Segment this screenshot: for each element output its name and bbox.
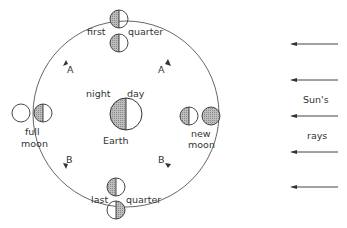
new-moon-label-line1: new xyxy=(191,128,211,139)
earth xyxy=(110,98,142,130)
orbit-marker-a-left: A xyxy=(67,64,74,75)
suns-rays-label-line2: rays xyxy=(307,130,327,141)
full-moon-label-line2: moon xyxy=(21,138,48,149)
moon-first-quarter-orbit xyxy=(110,34,128,52)
earth-night-label: night xyxy=(86,88,110,99)
moon-first-quarter-appearance xyxy=(110,10,128,28)
moon-full-orbit xyxy=(34,104,52,122)
full-moon-label-line1: full xyxy=(25,126,40,137)
moon-full-appearance xyxy=(12,104,30,122)
sun-rays xyxy=(290,42,338,189)
moon-last-quarter-orbit xyxy=(107,178,125,196)
orbit-marker-b-right: B xyxy=(158,154,165,165)
orbit-marker-a-right: A xyxy=(158,64,165,75)
orbit-arrow-icon xyxy=(165,59,171,66)
moon-phases-diagram xyxy=(0,0,347,228)
orbit-arrow-icon xyxy=(165,163,171,168)
suns-rays-label-line1: Sun's xyxy=(303,94,329,105)
new-moon-label-line2: moon xyxy=(188,139,215,150)
last-quarter-label-quarter: quarter xyxy=(126,194,161,205)
moon-new-appearance xyxy=(202,107,220,125)
earth-day-label: day xyxy=(127,88,144,99)
earth-label: Earth xyxy=(103,135,128,146)
moon-new-orbit xyxy=(180,107,198,125)
moon-last-quarter-appearance xyxy=(107,201,125,219)
first-quarter-label-quarter: quarter xyxy=(128,26,163,37)
first-quarter-label-first: first xyxy=(87,26,106,37)
orbit-marker-b-left: B xyxy=(66,154,73,165)
last-quarter-label-last: last xyxy=(91,194,108,205)
